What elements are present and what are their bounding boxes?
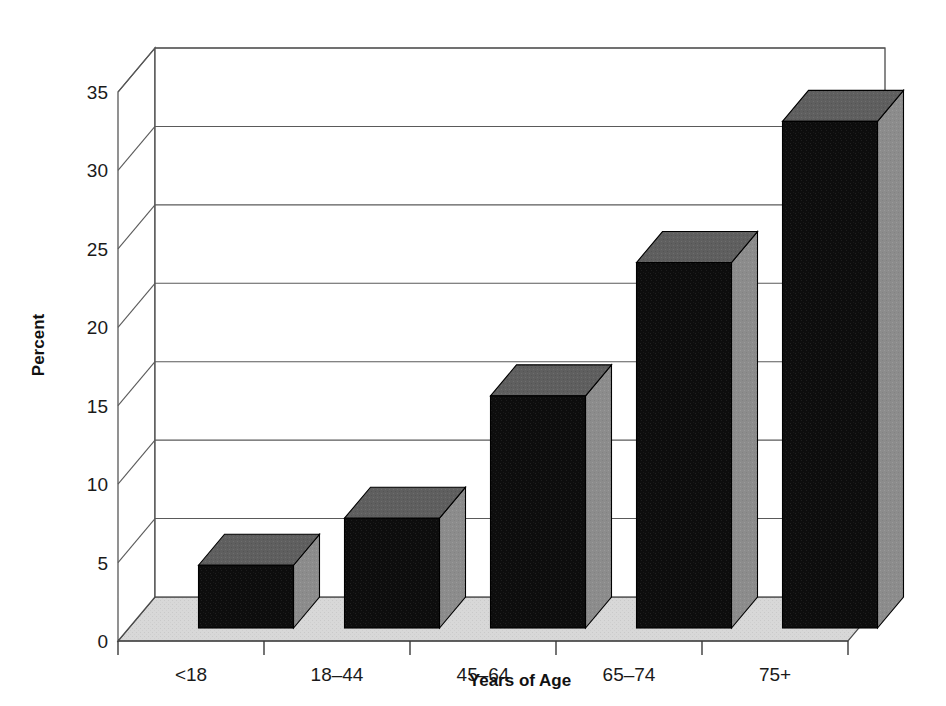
y-tick-label: 15 (87, 396, 108, 417)
bar[interactable] (199, 534, 320, 628)
bar[interactable] (491, 365, 612, 628)
chart-figure: 05101520253035 <1818–4445–6465–7475+ Yea… (0, 0, 946, 706)
y-tick-label: 0 (97, 631, 108, 652)
y-tick-label: 35 (87, 82, 108, 103)
x-tick-label: 65–74 (603, 664, 656, 685)
bar[interactable] (637, 232, 758, 628)
x-axis-title: Years of Age (469, 671, 571, 690)
x-tick-label: <18 (175, 664, 207, 685)
x-tick-label: 18–44 (311, 664, 364, 685)
y-tick-label: 5 (97, 553, 108, 574)
x-tick-label: 75+ (759, 664, 791, 685)
y-tick-label: 25 (87, 239, 108, 260)
y-tick-label: 10 (87, 474, 108, 495)
y-tick-label: 30 (87, 160, 108, 181)
bar[interactable] (345, 487, 466, 628)
y-axis-title: Percent (29, 313, 48, 376)
plot-left-panel (118, 48, 155, 641)
bar-chart-svg: 05101520253035 <1818–4445–6465–7475+ Yea… (0, 0, 946, 706)
bar[interactable] (783, 90, 904, 628)
y-tick-label: 20 (87, 317, 108, 338)
